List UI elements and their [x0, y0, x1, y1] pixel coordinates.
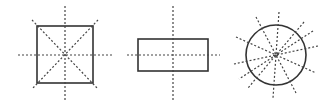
circle-figure [234, 12, 318, 98]
square-figure [18, 6, 112, 102]
rectangle-symmetry-lines [127, 6, 220, 102]
square-symmetry-lines [18, 6, 112, 102]
rectangle-figure [127, 6, 220, 102]
symmetry-diagram [0, 0, 332, 111]
